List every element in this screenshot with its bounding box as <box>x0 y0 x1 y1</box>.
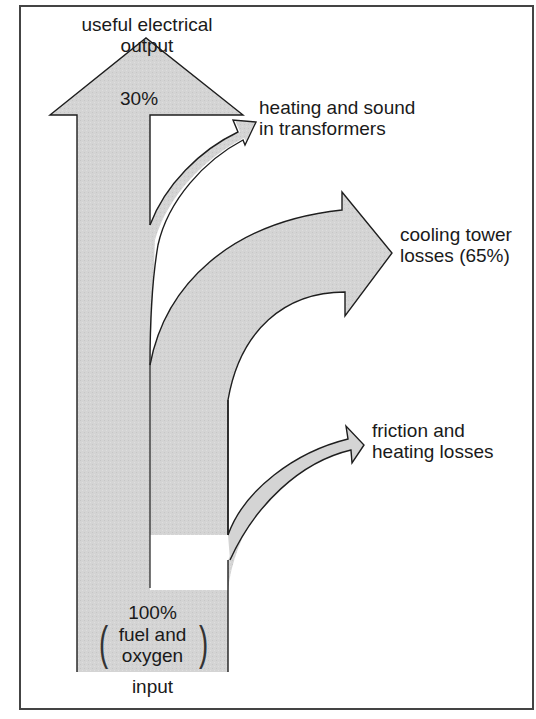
friction-arrow-outline <box>228 426 364 560</box>
transformer-label: heating and sound in transformers <box>259 97 415 139</box>
output-percent: 30% <box>120 88 158 109</box>
output-label: useful electrical output <box>22 14 272 56</box>
left-paren: ( <box>99 620 108 666</box>
transformer-label-line2: in transformers <box>259 118 415 139</box>
friction-label: friction and heating losses <box>372 420 493 462</box>
right-paren: ) <box>199 620 208 666</box>
friction-label-line1: friction and <box>372 420 493 441</box>
energy-flow-diagram: useful electrical output 30% heating and… <box>0 0 536 719</box>
cooling-tower-label-line2: losses (65%) <box>400 245 512 266</box>
friction-label-line2: heating losses <box>372 441 493 462</box>
transformer-label-line1: heating and sound <box>259 97 415 118</box>
input-caption: input <box>77 676 228 697</box>
cooling-tower-label: cooling tower losses (65%) <box>400 224 512 266</box>
output-label-line1: useful electrical <box>22 14 272 35</box>
output-label-line2: output <box>22 35 272 56</box>
cooling-tower-label-line1: cooling tower <box>400 224 512 245</box>
